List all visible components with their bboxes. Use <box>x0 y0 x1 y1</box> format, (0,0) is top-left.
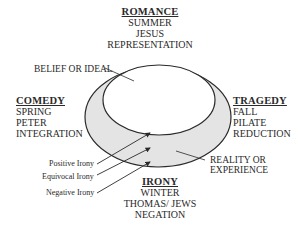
romance-line-3: REPRESENTATION <box>100 39 200 50</box>
reality-or-experience-label: REALITY OR EXPERIENCE <box>210 155 268 175</box>
comedy-title: COMEDY <box>16 95 83 106</box>
equivocal-irony-label: Equivocal Irony <box>42 172 94 182</box>
irony-line-2: THOMAS/ JEWS <box>110 198 210 209</box>
comedy-line-3: INTEGRATION <box>16 128 83 139</box>
tragedy-block: TRAGEDY FALL PILATE REDUCTION <box>233 95 291 139</box>
irony-title: IRONY <box>110 176 210 187</box>
reality-line-1: REALITY OR <box>210 155 268 165</box>
tragedy-title: TRAGEDY <box>233 95 291 106</box>
comedy-block: COMEDY SPRING PETER INTEGRATION <box>16 95 83 139</box>
negative-irony-label: Negative Irony <box>46 188 94 198</box>
belief-or-ideal-label: BELIEF OR IDEAL <box>34 64 113 74</box>
reality-line-2: EXPERIENCE <box>210 165 268 175</box>
ideal-ellipse <box>103 65 215 135</box>
comedy-line-2: PETER <box>16 117 83 128</box>
irony-line-1: WINTER <box>110 187 210 198</box>
positive-irony-label: Positive Irony <box>49 159 94 169</box>
romance-line-1: SUMMER <box>100 17 200 28</box>
irony-block: IRONY WINTER THOMAS/ JEWS NEGATION <box>110 176 210 220</box>
romance-block: ROMANCE SUMMER JESUS REPRESENTATION <box>100 6 200 50</box>
tragedy-line-2: PILATE <box>233 117 291 128</box>
irony-line-3: NEGATION <box>110 209 210 220</box>
romance-line-2: JESUS <box>100 28 200 39</box>
comedy-line-1: SPRING <box>16 106 83 117</box>
romance-title: ROMANCE <box>100 6 200 17</box>
tragedy-line-1: FALL <box>233 106 291 117</box>
tragedy-line-3: REDUCTION <box>233 128 291 139</box>
